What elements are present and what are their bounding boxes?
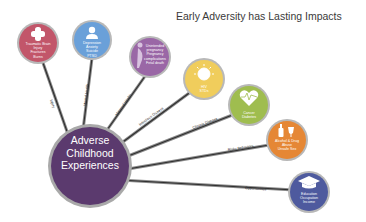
spoke-label-maternal-health: Maternal Health bbox=[115, 93, 133, 116]
hub-label: Adverse Childhood Experiences bbox=[45, 134, 135, 172]
node-label-infectious-disease: HIV STDs bbox=[190, 85, 218, 93]
node-label-chronic-disease: Cancer Diabetes bbox=[235, 111, 263, 119]
spoke-label-opportunities: Opportunities bbox=[245, 186, 267, 191]
diagram-title: Early Adversity has Lasting Impacts bbox=[176, 10, 342, 22]
node-text-line: Diabetes bbox=[235, 115, 263, 119]
spoke-label-infectious-disease: Infectious Disease bbox=[138, 106, 164, 127]
node-text-line: STDs bbox=[190, 89, 218, 93]
node-chronic-disease bbox=[228, 84, 270, 126]
node-infectious-disease bbox=[183, 58, 225, 100]
node-text-line: Burns bbox=[22, 55, 54, 59]
node-text-line: PTSD bbox=[76, 54, 108, 58]
hub-label-line: Childhood bbox=[45, 147, 135, 160]
node-label-mental-health: Depression Anxiety Suicide PTSD bbox=[76, 41, 108, 58]
node-label-opportunities: Education Occupation Income bbox=[294, 192, 324, 205]
node-label-maternal-health: Unintended pregnancy Pregnancy complicat… bbox=[140, 44, 170, 65]
diagram-canvas: Injury Mental Health Maternal Health Inf… bbox=[0, 0, 366, 222]
hub-label-line: Experiences bbox=[45, 159, 135, 172]
node-text-line: Unsafe Sex bbox=[271, 147, 303, 151]
node-text-line: Income bbox=[294, 200, 324, 204]
ace-diagram: Injury Mental Health Maternal Health Inf… bbox=[0, 0, 366, 222]
node-text-line: Fetal death bbox=[140, 61, 170, 65]
hub-label-line: Adverse bbox=[45, 134, 135, 147]
node-label-injury: Traumatic Brain Injury Fractures Burns bbox=[22, 42, 54, 59]
node-label-risky-behaviors: Alcohol & Drug Abuse Unsafe Sex bbox=[271, 139, 303, 152]
